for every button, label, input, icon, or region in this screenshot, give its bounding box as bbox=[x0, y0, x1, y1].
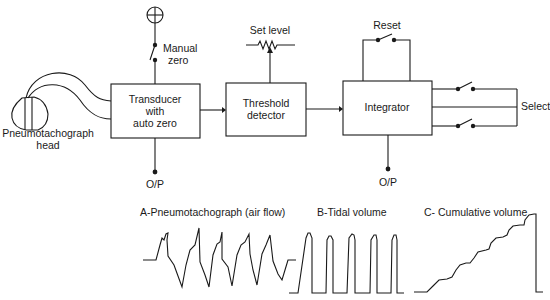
integrator-output-label: O/P bbox=[379, 176, 397, 188]
set-level-label: Set level bbox=[250, 24, 290, 36]
ground-symbol-icon bbox=[147, 7, 163, 23]
pneumotachograph-head-icon bbox=[12, 73, 111, 130]
threshold-label: Threshold bbox=[243, 97, 290, 109]
waveform-b-tidal bbox=[289, 233, 404, 293]
waveform-a-airflow bbox=[143, 228, 296, 287]
threshold-label-2: detector bbox=[247, 109, 285, 121]
block-diagram: Pneumotachograph head Manual zero Transd… bbox=[0, 0, 550, 300]
transducer-output-label: O/P bbox=[146, 178, 164, 190]
integrator-label: Integrator bbox=[365, 101, 410, 113]
reset-label: Reset bbox=[373, 19, 401, 31]
head-label: Pneumotachograph bbox=[2, 127, 94, 139]
potentiometer-icon bbox=[246, 41, 295, 83]
head-label-2: head bbox=[36, 139, 60, 151]
manual-zero-label: Manual bbox=[163, 42, 197, 54]
waveform-a-title: A-Pneumotachograph (air flow) bbox=[140, 206, 285, 218]
select-switches bbox=[432, 82, 517, 128]
transducer-label-3: auto zero bbox=[133, 117, 177, 129]
waveform-c-title: C- Cumulative volume bbox=[424, 206, 527, 218]
waveform-b-title: B-Tidal volume bbox=[317, 206, 387, 218]
transducer-label-2: with bbox=[145, 105, 165, 117]
manual-zero-switch bbox=[150, 45, 155, 60]
transducer-label: Transducer bbox=[129, 93, 182, 105]
waveform-c-cumulative bbox=[414, 214, 543, 292]
manual-zero-label-2: zero bbox=[168, 54, 189, 66]
reset-switch bbox=[378, 34, 392, 40]
select-label: Select bbox=[521, 100, 550, 112]
